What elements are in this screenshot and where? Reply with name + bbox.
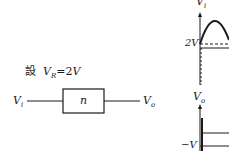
vi-waveform: [200, 21, 229, 44]
level-2v-label: 2V: [185, 38, 199, 48]
vo-axis-label: Vo: [193, 91, 205, 105]
given-prefix: 設: [25, 65, 36, 78]
vo-axis-symbol: V: [193, 90, 201, 103]
vi-axis-arrow-icon: [198, 12, 202, 17]
given-eq: =2: [56, 65, 72, 78]
vi-axis-sub: i: [204, 2, 206, 10]
vi-axis-label: Vi: [196, 0, 206, 10]
vr-symbol: V: [43, 65, 51, 78]
vi-symbol: V: [13, 94, 21, 107]
vo-symbol: V: [143, 94, 151, 107]
vo-sub: o: [151, 101, 155, 109]
block-label: n: [80, 95, 87, 106]
input-label: Vi: [13, 95, 23, 109]
level-neg-v-label: −V: [181, 140, 197, 150]
vi-axis-symbol: V: [196, 0, 204, 8]
given-unit: V: [72, 65, 80, 78]
vo-axis-sub: o: [201, 97, 205, 105]
vi-sub: i: [21, 101, 23, 109]
output-label: Vo: [143, 95, 155, 109]
given-text: 設 VR=2V: [25, 66, 80, 80]
